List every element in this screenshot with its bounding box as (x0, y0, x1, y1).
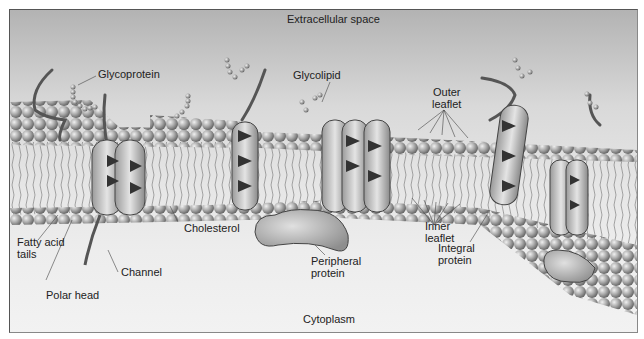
cholesterol-label: Cholesterol (184, 222, 240, 234)
fatty-acid-tails-label-line2: tails (17, 248, 37, 260)
peripheral-protein (255, 210, 348, 251)
glycolipid-label: Glycolipid (293, 69, 341, 81)
inner-leaflet-label-line1: Inner (425, 220, 450, 232)
fatty-acid-tails-label-line1: Fatty acid (17, 236, 65, 248)
glycoprotein-label: Glycoprotein (98, 68, 160, 80)
outer-leaflet-label-line1: Outer (433, 86, 461, 98)
membrane-illustration (10, 10, 637, 332)
peripheral-protein-label-line2: protein (311, 267, 345, 279)
peripheral-protein-label-line1: Peripheral (311, 255, 361, 267)
outer-leaflet-label-line2: leaflet (432, 98, 461, 110)
channel-label: Channel (121, 266, 162, 278)
membrane-diagram: Extracellular space Glycoprotein Glycoli… (9, 9, 638, 333)
extracellular-space-label: Extracellular space (287, 13, 380, 25)
cytoplasm-label: Cytoplasm (303, 313, 355, 325)
integral-protein-label-line1: Integral (438, 242, 475, 254)
integral-protein-label-line2: protein (438, 254, 472, 266)
polar-head-label: Polar head (46, 289, 99, 301)
